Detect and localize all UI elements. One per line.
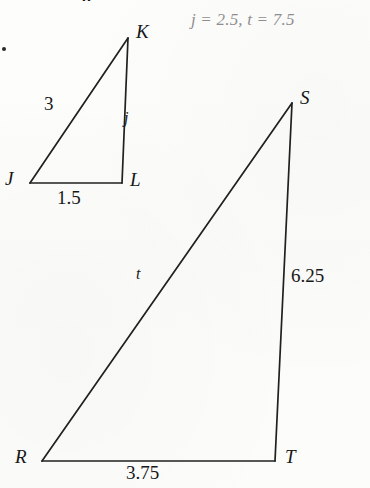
side-label-kl: j bbox=[124, 110, 128, 126]
segment-rs bbox=[42, 103, 292, 461]
geometry-drawing bbox=[0, 0, 370, 488]
side-label-rs: t bbox=[136, 266, 140, 282]
vertex-label-r: R bbox=[15, 447, 27, 466]
vertex-label-j: J bbox=[5, 169, 13, 188]
side-label-rt: 3.75 bbox=[126, 463, 159, 482]
worksheet-figure-page: g j = 2.5, t = 7.5 J K L 3 j 1.5 R S T t… bbox=[0, 0, 370, 488]
side-label-jl: 1.5 bbox=[57, 188, 81, 207]
side-label-jk: 3 bbox=[44, 94, 54, 113]
side-label-st: 6.25 bbox=[291, 266, 324, 285]
vertex-label-s: S bbox=[300, 88, 310, 107]
vertex-label-t: T bbox=[285, 447, 296, 466]
segment-st bbox=[275, 103, 292, 461]
vertex-label-k: K bbox=[136, 22, 149, 41]
vertex-label-l: L bbox=[130, 170, 141, 189]
